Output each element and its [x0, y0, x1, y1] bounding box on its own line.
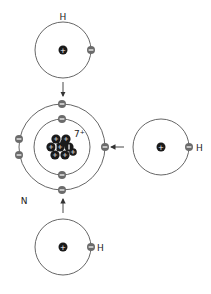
proton-icon: +: [157, 143, 166, 152]
electron-icon: [15, 151, 23, 159]
proton-icon: +: [59, 243, 68, 252]
nitrogen-nucleus: + + + + + + +: [46, 134, 76, 159]
svg-text:+: +: [60, 244, 66, 252]
electron-icon: [101, 143, 109, 151]
svg-text:+: +: [48, 143, 53, 151]
svg-text:+: +: [158, 144, 164, 152]
proton-icon: +: [59, 46, 68, 55]
svg-text:+: +: [63, 135, 68, 143]
svg-text:+: +: [52, 151, 57, 159]
hydrogen-atom-bottom: + H: [35, 219, 104, 275]
electron-icon: [185, 143, 193, 151]
electron-icon: [58, 100, 66, 108]
svg-text:+: +: [53, 135, 58, 143]
electron-icon: [87, 243, 95, 251]
diagram-canvas: H + + + + +: [0, 0, 211, 294]
hydrogen-label-right: H: [196, 143, 203, 153]
electron-icon: [58, 115, 66, 123]
electron-icon: [58, 186, 66, 194]
svg-text:+: +: [70, 148, 75, 156]
svg-text:+: +: [57, 143, 62, 151]
hydrogen-atom-top: H +: [35, 12, 95, 78]
nitrogen-atom: + + + + + + + 7+ N: [15, 100, 109, 206]
hydrogen-atom-right: + H: [133, 119, 203, 175]
svg-text:+: +: [62, 151, 67, 159]
nucleus-charge-label: 7+: [74, 128, 85, 139]
svg-text:+: +: [60, 47, 66, 55]
electron-icon: [15, 135, 23, 143]
hydrogen-label-bottom: H: [97, 243, 104, 253]
nitrogen-label: N: [21, 196, 28, 206]
hydrogen-label-top: H: [60, 12, 67, 22]
electron-icon: [58, 171, 66, 179]
ammonia-bonding-diagram: H + + + + +: [0, 0, 211, 294]
electron-icon: [87, 46, 95, 54]
